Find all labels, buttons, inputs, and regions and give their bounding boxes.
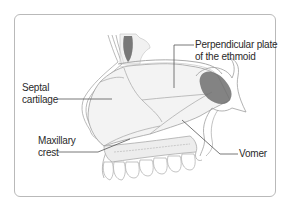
label-vomer: Vomer <box>239 148 267 160</box>
label-perpendicular-plate: Perpendicular plate of the ethmoid <box>195 39 277 63</box>
label-line: of the ethmoid <box>195 51 277 63</box>
label-line: Perpendicular plate <box>195 39 277 51</box>
label-line: cartilage <box>22 94 58 106</box>
label-line: Septal <box>22 82 58 94</box>
label-line: Vomer <box>239 148 267 159</box>
label-maxillary-crest: Maxillary crest <box>38 135 76 159</box>
nasal-septum-illustration <box>0 0 291 214</box>
label-line: crest <box>38 147 76 159</box>
label-line: Maxillary <box>38 135 76 147</box>
label-septal-cartilage: Septal cartilage <box>22 82 58 106</box>
